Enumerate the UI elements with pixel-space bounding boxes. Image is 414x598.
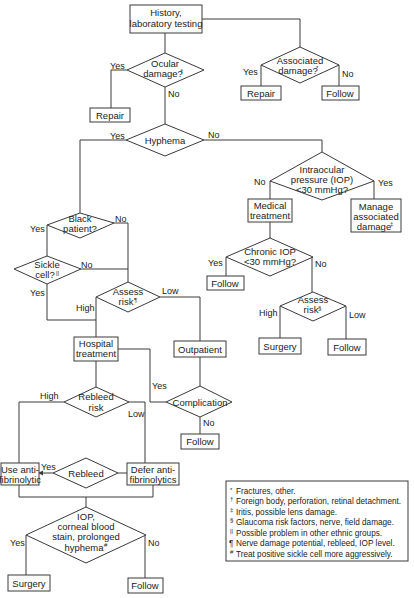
svg-text:damage?: damage? [278,65,318,76]
legend-item: § Glaucoma risk factors, nerve, field da… [230,517,394,527]
svg-text:<30 mmHg?: <30 mmHg? [244,256,296,267]
legend-item: || Possible problem in other ethnic grou… [230,528,382,538]
svg-text:risk: risk [89,402,104,413]
node-follow-5[interactable]: Follow [128,578,163,593]
label-iop-no: No [254,177,266,187]
svg-text:Repair: Repair [247,88,275,99]
node-follow-2[interactable]: Follow [207,276,244,290]
decision-ocular-damage[interactable]: Ocular damage? † [127,53,204,87]
svg-text:‡: ‡ [390,221,393,227]
svg-text:damage?: damage? [143,68,183,79]
label-final-yes: Yes [10,538,25,548]
node-repair-2[interactable]: Repair [241,86,281,100]
label-assess-high: High [76,303,95,313]
svg-text:Follow: Follow [211,278,239,289]
decision-intraocular-pressure[interactable]: Intraocular pressure (IOP) <30 mmHg? [270,152,374,200]
label-complication-no: No [203,418,215,428]
svg-text:damage: damage [357,221,391,232]
svg-text:Foreign body, perforation, ret: Foreign body, perforation, retinal detac… [236,497,401,506]
svg-text:Follow: Follow [131,580,159,591]
decision-complication[interactable]: Complication [166,386,232,417]
svg-text:Hyphema: Hyphema [145,135,186,146]
node-manage-associated-damage[interactable]: Manage associated damage ‡ [351,199,401,232]
label-assess-low: Low [162,286,179,296]
label-chronic-yes: Yes [208,258,223,268]
svg-text:<30 mmHg?: <30 mmHg? [296,184,348,195]
node-medical-treatment[interactable]: Medical treatment [248,199,292,222]
label-rebleed-risk-low: Low [128,409,145,419]
legend-item: † Foreign body, perforation, retinal det… [230,496,401,506]
decision-black-patient[interactable]: Black patient? [47,213,114,238]
svg-text:‡: ‡ [230,507,233,513]
decision-associated-damage[interactable]: Associated damage? * [261,47,339,83]
svg-text:Follow: Follow [333,342,361,353]
label-black-yes: Yes [30,224,45,234]
node-outpatient[interactable]: Outpatient [174,341,226,357]
label-sickle-yes: Yes [30,288,45,298]
legend-item: # Treat positive sickle cell more aggres… [230,549,393,559]
node-history[interactable]: History, laboratory testing [130,5,203,33]
svg-text:risk: risk [304,304,319,315]
legend-item: * Fractures, other. [230,487,296,496]
svg-text:¶: ¶ [134,297,137,303]
legend-item: ‡ Iritis, possible lens damage. [230,507,337,517]
label-complication-yes: Yes [152,381,167,391]
node-use-antifibrinolytic[interactable]: Use anti- fibrinolytic [0,463,41,485]
node-follow-1[interactable]: Follow [322,86,359,100]
label-ocular-no: No [168,89,180,99]
node-surgery-2[interactable]: Surgery [8,575,50,591]
node-follow-3[interactable]: Follow [328,339,366,355]
svg-text:Iritis, possible lens damage.: Iritis, possible lens damage. [236,508,337,517]
label-glaucoma-high: High [259,308,278,318]
node-repair-1[interactable]: Repair [90,108,130,122]
label-associated-yes: Yes [243,67,258,77]
svg-text:Glaucoma risk factors, nerve,: Glaucoma risk factors, nerve, field dama… [236,518,394,527]
decision-assess-risk[interactable]: Assess risk ¶ [96,282,160,312]
decision-rebleed-risk[interactable]: Rebleed risk [64,387,129,417]
svg-text:Repair: Repair [96,110,124,121]
svg-text:Fractures, other.: Fractures, other. [236,487,296,496]
node-hospital-treatment[interactable]: Hospital treatment [74,337,118,361]
label-iop-yes: Yes [378,178,393,188]
label-hyphema-yes: Yes [110,131,125,141]
label-associated-no: No [342,69,354,79]
svg-text:Rebleed: Rebleed [78,391,113,402]
decision-sickle-cell[interactable]: Sickle cell? || [14,256,81,284]
decision-chronic-iop[interactable]: Chronic IOP <30 mmHg? [226,238,313,276]
svg-text:Outpatient: Outpatient [178,344,222,355]
decision-iop-corneal-stain-hyphema[interactable]: IOP, corneal blood stain, prolonged hyph… [26,507,146,563]
label-sickle-no: No [81,260,93,270]
label-chronic-no: No [315,259,327,269]
svg-text:fibrinolytics: fibrinolytics [130,474,177,485]
decision-rebleed[interactable]: Rebleed [53,458,118,488]
svg-text:Treat positive sickle cell mor: Treat positive sickle cell more aggressi… [236,550,393,559]
svg-text:Possible problem in other ethn: Possible problem in other ethnic groups. [236,529,382,538]
node-surgery-1[interactable]: Surgery [259,338,301,354]
node-follow-4[interactable]: Follow [181,434,219,449]
svg-text:treatment: treatment [250,210,290,221]
label-final-no: No [148,538,160,548]
svg-text:stain, prolonged: stain, prolonged [52,531,120,542]
svg-text:†: † [230,496,233,502]
svg-text:Nerve damage potential, reblee: Nerve damage potential, rebleed, IOP lev… [236,539,395,548]
decision-hyphema[interactable]: Hyphema [126,124,204,156]
decision-assess-risk-glaucoma[interactable]: Assess risk § [280,292,346,321]
svg-text:treatment: treatment [76,348,116,359]
svg-text:||: || [230,528,234,534]
svg-text:Surgery: Surgery [263,341,297,352]
svg-text:Follow: Follow [326,88,354,99]
svg-text:cell?: cell? [35,269,55,280]
label-glaucoma-low: Low [349,310,366,320]
label-rebleed-yes: Yes [41,462,56,472]
svg-text:§: § [230,517,233,523]
label-hyphema-no: No [208,130,220,140]
svg-text:laboratory testing: laboratory testing [130,18,203,29]
svg-text:hyphema: hyphema [64,542,104,553]
svg-text:patient?: patient? [63,223,97,234]
svg-text:||: || [56,270,60,276]
svg-text:¶: ¶ [229,539,234,548]
node-defer-antifibrinolytics[interactable]: Defer anti- fibrinolytics [127,463,179,485]
svg-text:History,: History, [150,7,182,18]
svg-text:Surgery: Surgery [12,578,46,589]
svg-text:risk: risk [119,296,134,307]
